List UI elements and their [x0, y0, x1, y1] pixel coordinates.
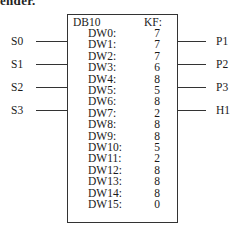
output-label-p3: P3 [216, 81, 228, 93]
output-wire-h1 [178, 110, 206, 111]
data-row: DW13:8 [68, 176, 177, 187]
data-row: DW12:8 [68, 165, 177, 176]
data-block-db10: DB10 KF: DW0:7 DW1:7 DW2:7 DW3:6 DW4:8 D… [67, 14, 178, 223]
data-row: DW14:8 [68, 188, 177, 199]
row-value: 8 [152, 119, 162, 130]
data-row: DW11:2 [68, 153, 177, 164]
output-label-p2: P2 [216, 58, 228, 70]
output-wire-p3 [178, 87, 206, 88]
input-label-s1: S1 [11, 58, 23, 70]
data-row: DW10:5 [68, 142, 177, 153]
data-row: DW4:8 [68, 74, 177, 85]
output-wire-p2 [178, 64, 206, 65]
input-wire-s1 [36, 64, 67, 65]
input-wire-s0 [36, 41, 67, 42]
data-row: DW6:8 [68, 96, 177, 107]
input-label-s2: S2 [11, 81, 23, 93]
data-row: DW7:2 [68, 108, 177, 119]
data-row: DW8:8 [68, 119, 177, 130]
input-label-s3: S3 [11, 104, 23, 116]
input-label-s0: S0 [11, 35, 23, 47]
row-name: DW15: [88, 199, 122, 210]
cropped-heading: ender. [0, 0, 36, 9]
row-value: 8 [152, 176, 162, 187]
data-row: DW2:7 [68, 51, 177, 62]
output-wire-p1 [178, 41, 206, 42]
row-value: 0 [152, 199, 162, 210]
row-name: DW8: [88, 119, 116, 130]
output-label-h1: H1 [216, 104, 230, 116]
input-wire-s2 [36, 87, 67, 88]
row-name: DW13: [88, 176, 122, 187]
row-value: 6 [152, 62, 162, 73]
data-row: DW9:8 [68, 131, 177, 142]
output-label-p1: P1 [216, 35, 228, 47]
data-row: DW3:6 [68, 62, 177, 73]
row-name: DW3: [88, 62, 116, 73]
data-row: DW5:5 [68, 85, 177, 96]
data-row: DW1:7 [68, 39, 177, 50]
input-wire-s3 [36, 110, 67, 111]
data-row: DW15:0 [68, 199, 177, 210]
data-row: DW0:7 [68, 28, 177, 39]
